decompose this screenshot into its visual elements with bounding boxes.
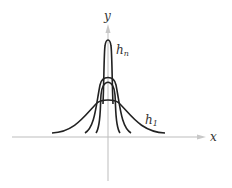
- y-axis-arrow-icon: [106, 24, 111, 33]
- y-axis-label: y: [103, 9, 111, 23]
- x-axis-arrow-icon: [197, 135, 206, 140]
- curve-h1-label: h1: [145, 113, 158, 128]
- curve-hn-label: hn: [116, 43, 129, 58]
- bump-functions-diagram: x y hn h1: [0, 0, 232, 188]
- x-axis-label: x: [210, 130, 217, 144]
